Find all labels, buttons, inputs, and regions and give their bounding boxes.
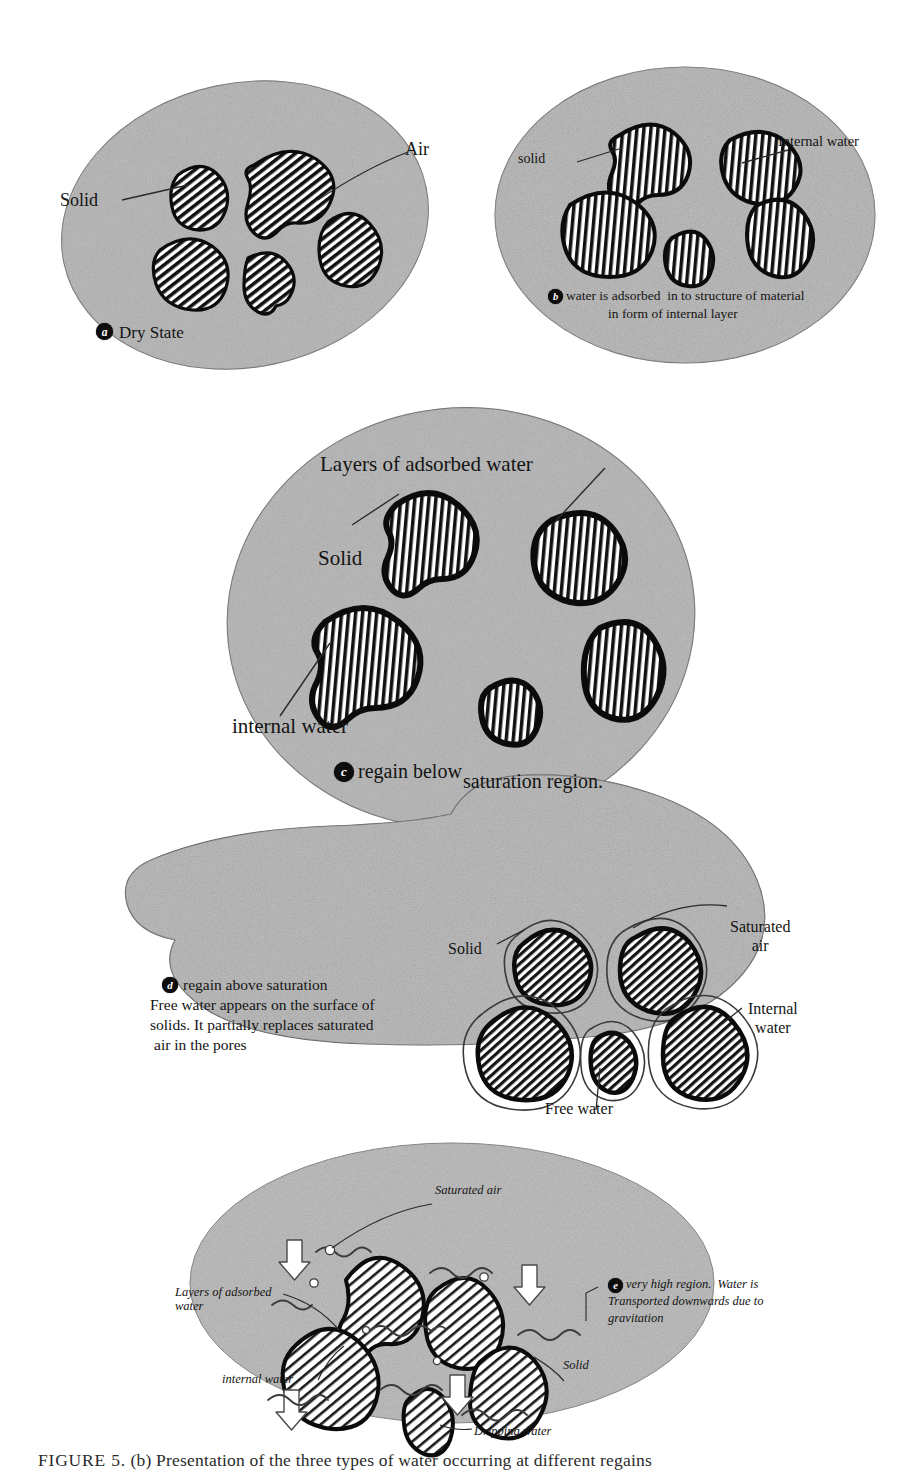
panel-e-badge: e — [608, 1278, 623, 1293]
panel-d-caption-line-4: air in the pores — [154, 1036, 247, 1054]
panel-e-label-dripping-water: Dripping water — [474, 1424, 551, 1439]
panel-d-badge: d — [162, 977, 178, 993]
panel-d-label-free-water: Free water — [545, 1100, 613, 1119]
panel-e-caption-line-1: very high region. Water is — [626, 1277, 758, 1291]
panel-d-caption-line-2: Free water appears on the surface of — [150, 996, 375, 1014]
panel-c-caption-line-1: regain below — [358, 760, 462, 784]
figure-container: Solid Air a Dry State solid Internal wat… — [0, 0, 915, 1473]
panel-a-matrix — [35, 48, 456, 403]
panel-c-label-internal-water: internal water — [232, 714, 348, 739]
panel-e-label-layers: Layers of adsorbed water — [175, 1285, 272, 1313]
panel-b-label-solid: solid — [518, 151, 545, 168]
panel-b-badge: b — [548, 289, 563, 304]
panel-d-label-internal-water: Internal water — [748, 1000, 798, 1038]
panel-b-label-internal-water: Internal water — [778, 133, 859, 150]
figure-caption: FIGURE 5. (b) Presentation of the three … — [38, 1449, 878, 1471]
panel-d-label-saturated-air: Saturated air — [730, 918, 790, 956]
diagram-canvas — [0, 0, 915, 1473]
panel-a — [35, 48, 456, 403]
panel-b-caption-line-2: in form of internal layer — [608, 306, 738, 321]
panel-c-label-solid: Solid — [318, 546, 362, 571]
panel-d — [125, 775, 764, 1110]
panel-d-label-solid: Solid — [448, 940, 482, 959]
panel-a-label-solid: Solid — [60, 190, 98, 211]
panel-e-label-saturated-air: Saturated air — [435, 1183, 501, 1198]
panel-c-caption-line-2: saturation region. — [463, 770, 603, 794]
panel-a-label-air: Air — [405, 139, 429, 160]
panel-e-caption-line-3: gravitation — [608, 1311, 664, 1325]
figure-number: FIGURE 5. — [38, 1450, 126, 1470]
figure-caption-text: (b) Presentation of the three types of w… — [130, 1450, 652, 1470]
panel-c-label-layers: Layers of adsorbed water — [320, 452, 533, 477]
panel-a-badge: a — [96, 323, 113, 340]
panel-e-caption-line-2: Transported downwards due to — [608, 1294, 763, 1308]
panel-e-label-solid: Solid — [563, 1358, 589, 1373]
panel-d-caption-line-3: solids. It partially replaces saturated — [150, 1016, 373, 1034]
panel-b-caption-line-1: water is adsorbed in to structure of mat… — [566, 288, 804, 303]
panel-d-caption-line-1: regain above saturation — [183, 976, 328, 994]
panel-c-badge: c — [334, 762, 354, 782]
panel-e-label-internal-water: internal water — [222, 1372, 293, 1387]
panel-a-caption: Dry State — [119, 323, 184, 343]
